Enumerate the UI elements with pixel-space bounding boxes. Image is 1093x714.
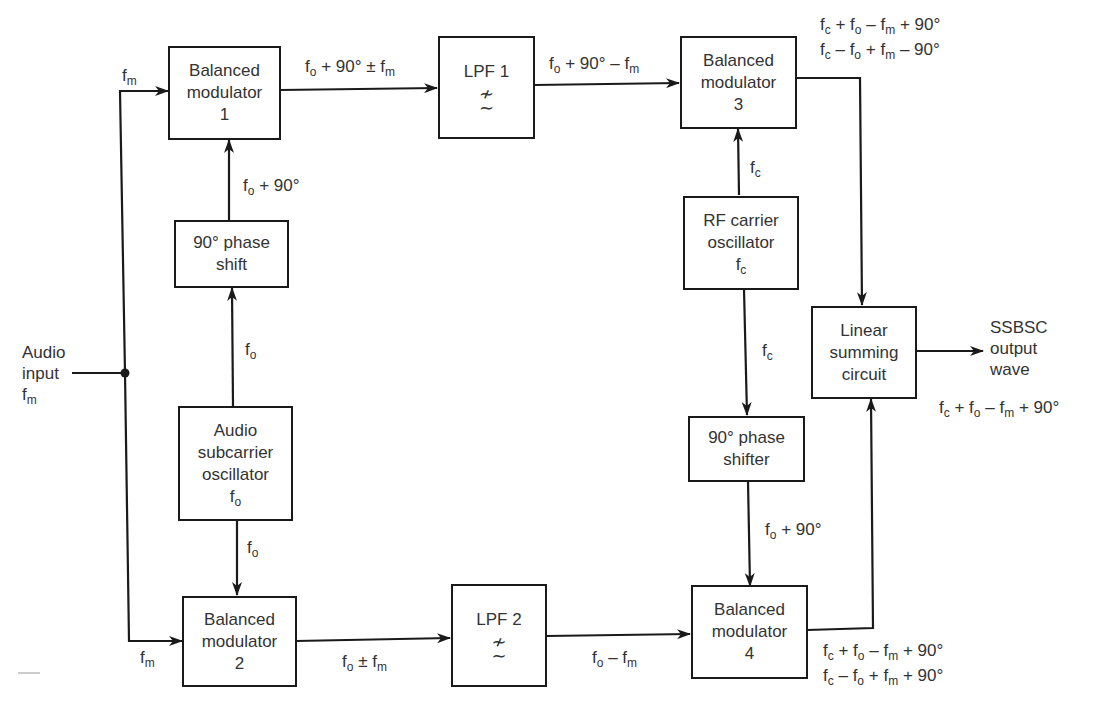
low-pass-filter-2: LPF 2 ≁∼ [451,584,547,687]
ssbsc-output-label: SSBSC output wave [990,317,1048,380]
bm2-label-2: modulator [202,631,278,653]
linear-summing-circuit: Linear summing circuit [811,306,917,399]
bm2-label-1: Balanced [204,609,275,631]
balanced-modulator-2: Balanced modulator 2 [182,596,297,687]
summer-label-3: circuit [842,364,886,386]
osc-up-label: fo [245,340,256,360]
bm4-to-summer-wire [807,399,873,630]
rf-up-label: fc [750,158,761,178]
output-equation-label: fc + fo – fm + 90° [939,398,1059,418]
balanced-modulator-1: Balanced modulator 1 [168,46,281,140]
fm-bottom-label: fm [140,648,155,668]
lpf1-label: LPF 1 [464,61,509,83]
bm1-label-1: Balanced [189,60,260,82]
bm3-label-3: 3 [734,94,743,116]
bm2-label-3: 2 [235,653,244,675]
lowpass-filter-icon: ≁∼ [479,87,494,115]
phase-shift-block: 90° phase shift [174,220,289,288]
bm1-label-2: modulator [187,82,263,104]
bm3-label-1: Balanced [703,50,774,72]
fm-top-label: fm [122,66,137,86]
rf-osc-label-2: oscillator [707,232,774,254]
shifter-to-bm4-wire [748,481,750,586]
audio-input-label: Audio input fm [22,342,65,405]
phase-shifter-block: 90° phase shifter [688,416,805,482]
lpf2-output-label: fo – fm [592,648,637,668]
phase-shifter-label-2: shifter [723,449,769,471]
bm1-label-3: 1 [220,104,229,126]
junction-dot [121,369,130,378]
bm3-output-label: fc + fo – fm + 90° fc – fo + fm – 90° [820,12,940,62]
bm1-to-lpf1-wire [280,88,437,90]
rf-to-bm3-wire [738,129,739,195]
lpf1-to-bm3-wire [534,83,679,85]
fm-to-bm2-wire [125,373,182,641]
bm4-label-2: modulator [712,621,788,643]
low-pass-filter-1: LPF 1 ≁∼ [438,36,535,139]
balanced-modulator-4: Balanced modulator 4 [691,585,808,679]
lpf2-to-bm4-wire [546,634,690,636]
lowpass-filter-icon: ≁∼ [491,635,506,663]
phase-shift-output-label: fo + 90° [243,176,300,196]
rf-osc-freq: fc [736,254,747,276]
bm4-label-1: Balanced [714,599,785,621]
summer-label-1: Linear [840,320,887,342]
audio-osc-label-1: Audio [214,420,257,442]
bm2-to-lpf2-wire [296,638,450,641]
audio-osc-label-2: subcarrier [198,442,274,464]
bm1-output-label: fo + 90° ± fm [305,57,395,77]
rf-osc-label-1: RF carrier [703,210,779,232]
rf-carrier-oscillator: RF carrier oscillator fc [683,196,799,290]
rf-down-label: fc [762,341,773,361]
osc-to-phase-wire [232,288,233,406]
lpf1-output-label: fo + 90° – fm [549,54,639,74]
audio-osc-label-3: oscillator [202,464,269,486]
phase-shift-label-2: shift [216,254,247,276]
audio-subcarrier-oscillator: Audio subcarrier oscillator fo [178,406,293,521]
bm3-to-summer-wire [796,78,862,305]
balanced-modulator-3: Balanced modulator 3 [680,36,797,129]
lpf2-label: LPF 2 [476,609,521,631]
bm2-output-label: fo ± fm [342,652,387,672]
phase-shift-label-1: 90° phase [193,232,270,254]
rf-to-shifter-wire [744,289,747,415]
phase-shifter-label-1: 90° phase [708,427,785,449]
fm-to-bm1-wire [120,91,168,373]
shifter-output-label: fo + 90° [765,520,822,540]
summer-label-2: summing [830,342,899,364]
bm3-label-2: modulator [701,72,777,94]
bm4-output-label: fc + fo – fm + 90° fc – fo + fm + 90° [823,638,943,688]
audio-osc-freq: fo [230,486,241,508]
bm4-label-3: 4 [745,643,754,665]
osc-down-label: fo [247,538,258,558]
